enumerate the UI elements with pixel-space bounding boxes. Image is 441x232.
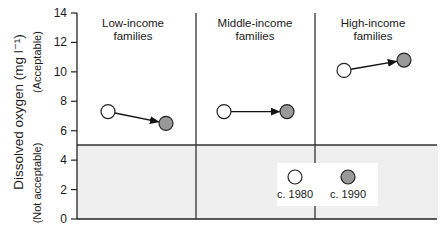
legend-label-1980: c. 1980 <box>277 188 313 200</box>
legend-filled-circle-icon <box>341 170 355 184</box>
y-axis-label: Dissolved oxygen (mg l⁻¹) <box>11 34 26 190</box>
y-tick-label: 12 <box>54 35 68 49</box>
acceptable-label: (Acceptable) <box>31 31 43 93</box>
y-tick-label: 8 <box>60 94 67 108</box>
not-acceptable-zone <box>77 145 438 219</box>
panel-subtitle-low-income: families <box>114 30 153 42</box>
y-axis-ticks: 02468101214 <box>54 6 77 226</box>
y-tick-label: 0 <box>60 212 67 226</box>
point-1980-icon <box>101 105 115 119</box>
panel-title-low-income: Low-income <box>102 17 164 29</box>
y-tick-label: 6 <box>60 124 67 138</box>
change-arrow <box>351 61 397 69</box>
change-arrow <box>115 113 159 122</box>
point-1990-icon <box>159 116 173 130</box>
y-tick-label: 14 <box>54 6 68 20</box>
point-1990-icon <box>397 53 411 67</box>
point-1980-icon <box>217 105 231 119</box>
panel-subtitle-middle-income: families <box>236 30 275 42</box>
y-tick-label: 4 <box>60 153 67 167</box>
legend: c. 1980 c. 1990 <box>277 163 378 206</box>
point-1980-icon <box>337 63 351 77</box>
y-tick-label: 2 <box>60 183 67 197</box>
data-points <box>101 53 411 130</box>
panel-subtitle-high-income: families <box>354 30 393 42</box>
y-tick-label: 10 <box>54 65 68 79</box>
panel-title-middle-income: Middle-income <box>218 17 293 29</box>
not-acceptable-label: (Not acceptable) <box>31 143 43 224</box>
dissolved-oxygen-chart: 02468101214 Dissolved oxygen (mg l⁻¹) (A… <box>0 0 441 232</box>
legend-label-1990: c. 1990 <box>330 188 366 200</box>
panel-title-high-income: High-income <box>341 17 406 29</box>
point-1990-icon <box>280 105 294 119</box>
legend-open-circle-icon <box>288 170 302 184</box>
